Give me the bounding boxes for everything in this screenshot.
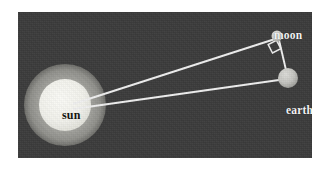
astronomy-diagram xyxy=(18,12,312,158)
moon-label: moon xyxy=(274,29,302,41)
diagram-panel: sun earth moon xyxy=(18,12,312,158)
earth-label: earth xyxy=(286,104,312,116)
line-moon-to-earth xyxy=(279,40,286,70)
earth-body xyxy=(278,68,298,88)
sun-core xyxy=(39,79,91,131)
figure-canvas: sun earth moon xyxy=(0,0,330,173)
sun-label: sun xyxy=(62,108,81,123)
